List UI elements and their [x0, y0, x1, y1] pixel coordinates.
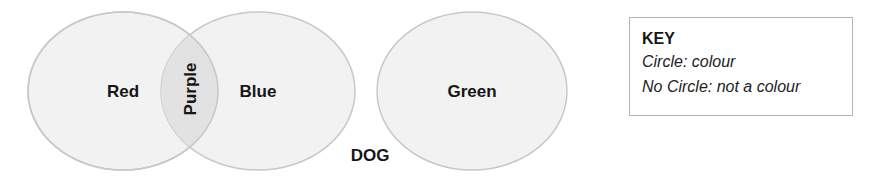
- venn-diagram: [0, 0, 620, 178]
- key-box: KEY Circle: colour No Circle: not a colo…: [629, 17, 853, 116]
- key-title: KEY: [642, 29, 852, 49]
- label-red: Red: [107, 83, 139, 100]
- label-green: Green: [447, 83, 496, 100]
- key-line-circle: Circle: colour: [642, 49, 852, 74]
- label-dog: DOG: [351, 147, 390, 164]
- key-line-no-circle: No Circle: not a colour: [642, 74, 852, 99]
- label-blue: Blue: [240, 83, 277, 100]
- label-purple: Purple: [182, 63, 199, 116]
